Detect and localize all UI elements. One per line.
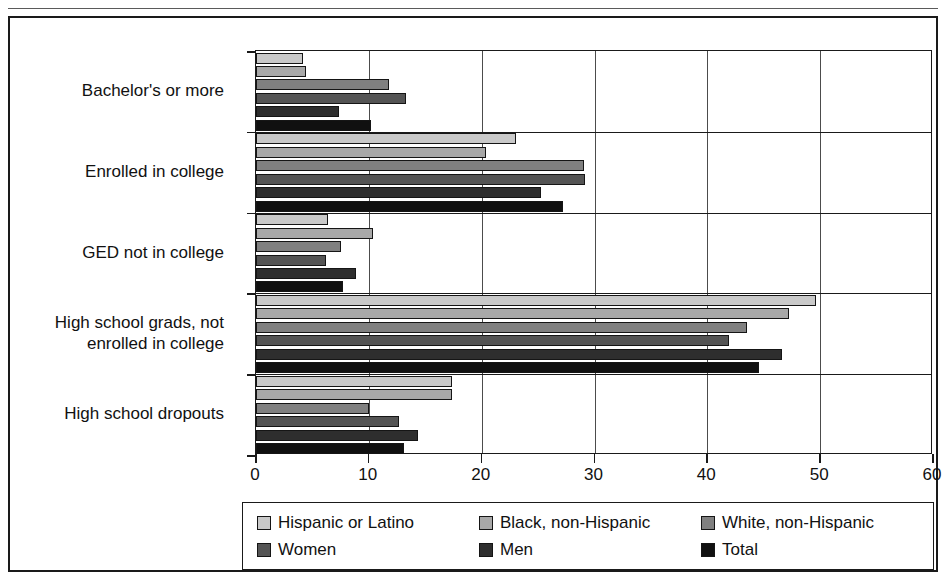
bar [256, 133, 516, 144]
bar-row [256, 255, 931, 265]
bar [256, 120, 371, 131]
legend-row: Hispanic or LatinoBlack, non-HispanicWhi… [257, 509, 923, 536]
bar [256, 403, 369, 414]
category-separator [256, 132, 931, 133]
bar [256, 160, 584, 171]
bar [256, 106, 339, 117]
category-label: Enrolled in college [4, 161, 224, 182]
x-axis: 0102030405060 [255, 454, 932, 494]
bar [256, 228, 373, 239]
bar [256, 389, 452, 400]
legend-item[interactable]: White, non-Hispanic [701, 513, 923, 533]
legend-swatch-icon [479, 516, 493, 530]
plot-area [255, 50, 932, 454]
bar [256, 376, 452, 387]
category-label-line: Bachelor's or more [4, 80, 224, 101]
bar [256, 147, 486, 158]
bar-row [256, 133, 931, 143]
category-tick [247, 132, 256, 134]
legend-label: Black, non-Hispanic [500, 513, 650, 533]
x-axis-tick [706, 454, 708, 463]
bar [256, 281, 343, 292]
bar-row [256, 349, 931, 359]
bar [256, 53, 303, 64]
legend-item[interactable]: Total [701, 540, 923, 560]
bar-row [256, 120, 931, 130]
bar [256, 214, 328, 225]
category-label-line: High school dropouts [4, 403, 224, 424]
category-tick [247, 213, 256, 215]
bar [256, 241, 341, 252]
bar-row [256, 79, 931, 89]
bar-row [256, 201, 931, 211]
bar-row [256, 403, 931, 413]
bar-row [256, 268, 931, 278]
bar [256, 201, 563, 212]
bar-row [256, 228, 931, 238]
legend-swatch-icon [257, 516, 271, 530]
bar [256, 308, 789, 319]
bar-row [256, 66, 931, 76]
legend-item[interactable]: Hispanic or Latino [257, 513, 479, 533]
category-tick [247, 293, 256, 295]
legend-row: WomenMenTotal [257, 536, 923, 563]
category-separator [256, 374, 931, 375]
bar-row [256, 335, 931, 345]
x-axis-tick [594, 454, 596, 463]
x-axis-tick-label: 30 [564, 465, 624, 485]
bar-row [256, 53, 931, 63]
bar-row [256, 308, 931, 318]
x-axis-tick-label: 50 [789, 465, 849, 485]
x-axis-tick-label: 40 [676, 465, 736, 485]
bar-row [256, 160, 931, 170]
bar [256, 322, 747, 333]
bar [256, 443, 404, 454]
bar [256, 174, 585, 185]
bar-group [256, 213, 931, 294]
bar-group [256, 293, 931, 374]
x-axis-tick [932, 454, 934, 463]
bar [256, 416, 399, 427]
legend-item[interactable]: Men [479, 540, 701, 560]
legend-item[interactable]: Black, non-Hispanic [479, 513, 701, 533]
chart-legend: Hispanic or LatinoBlack, non-HispanicWhi… [242, 502, 934, 570]
category-label-line: enrolled in college [4, 333, 224, 354]
bar-row [256, 443, 931, 453]
bar-group [256, 51, 931, 132]
chart-plate: Bachelor's or moreEnrolled in collegeGED… [8, 16, 938, 572]
bar-row [256, 214, 931, 224]
legend-label: White, non-Hispanic [722, 513, 874, 533]
category-label-line: Enrolled in college [4, 161, 224, 182]
bar [256, 268, 356, 279]
bar [256, 79, 389, 90]
chart-figure: Bachelor's or moreEnrolled in collegeGED… [0, 0, 946, 582]
x-axis-tick [819, 454, 821, 463]
category-separator [256, 293, 931, 294]
category-label-line: GED not in college [4, 242, 224, 263]
bar-row [256, 376, 931, 386]
legend-label: Total [722, 540, 758, 560]
bar [256, 335, 729, 346]
bar-group [256, 132, 931, 213]
caption-rule [8, 8, 938, 9]
category-label: Bachelor's or more [4, 80, 224, 101]
bar-row [256, 281, 931, 291]
x-axis-tick-label: 20 [451, 465, 511, 485]
bar-row [256, 147, 931, 157]
bar-group [256, 374, 931, 455]
bar-row [256, 295, 931, 305]
legend-swatch-icon [701, 543, 715, 557]
x-axis-tick-label: 60 [902, 465, 946, 485]
legend-swatch-icon [257, 543, 271, 557]
bar-row [256, 106, 931, 116]
legend-label: Women [278, 540, 336, 560]
category-tick [247, 51, 256, 53]
legend-item[interactable]: Women [257, 540, 479, 560]
category-label: High school dropouts [4, 403, 224, 424]
bar [256, 362, 759, 373]
bar-row [256, 416, 931, 426]
bar-row [256, 362, 931, 372]
x-axis-tick [481, 454, 483, 463]
x-axis-tick [255, 454, 257, 463]
legend-label: Hispanic or Latino [278, 513, 414, 533]
